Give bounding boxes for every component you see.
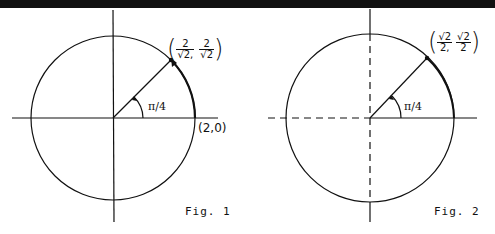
- fig1-x-fraction: 2√2,: [176, 39, 194, 60]
- fig1-y-fraction: 2√2: [199, 39, 214, 60]
- fig1-y-axis: [113, 10, 114, 222]
- fig1-point-label: ( 2√2, 2√2 ): [167, 35, 223, 63]
- paren-close: ): [471, 28, 480, 56]
- fig1-angle-label: π/4: [148, 100, 166, 113]
- fig1-axis-point-label: (2,0): [198, 121, 226, 135]
- fig1-arc-bold: [171, 60, 195, 118]
- fig2-x-fraction: √22,: [437, 32, 452, 53]
- fig1-caption: Fig. 1: [185, 205, 231, 218]
- fig2-angle-label: π/4: [404, 100, 422, 113]
- paren-close: ): [214, 35, 223, 63]
- fig2-arc-bold: [427, 58, 454, 118]
- fig2-caption: Fig. 2: [434, 205, 480, 218]
- fig2-point-dot: [425, 56, 428, 59]
- diagram-canvas: [0, 0, 495, 234]
- paren-open: (: [428, 28, 437, 56]
- paren-open: (: [167, 35, 176, 63]
- fig2-point-label: ( √22, √22 ): [428, 28, 480, 56]
- fig2-y-fraction: √22: [456, 32, 471, 53]
